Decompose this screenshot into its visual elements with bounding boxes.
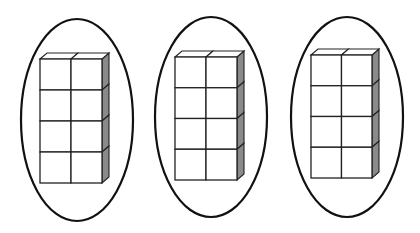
unit-cube [175, 119, 206, 150]
unit-cube [175, 88, 206, 119]
unit-cube [40, 90, 71, 121]
cube-top-face [206, 51, 244, 57]
unit-cube [40, 152, 71, 183]
cube-side-face [102, 146, 109, 183]
unit-cube [71, 90, 102, 121]
unit-cube [71, 152, 102, 183]
unit-cube [342, 147, 373, 178]
unit-cube [206, 57, 237, 88]
unit-cube [311, 147, 342, 178]
cube-side-face [237, 143, 244, 180]
cube-side-face [372, 141, 379, 178]
cube-group-3 [291, 17, 403, 217]
cube-stack [311, 49, 379, 178]
unit-cube [206, 119, 237, 150]
unit-cube [175, 57, 206, 88]
cube-top-face [342, 49, 380, 55]
cube-stack [175, 51, 244, 180]
unit-cube [175, 149, 206, 180]
unit-cube [206, 88, 237, 119]
cube-groups-diagram [0, 0, 420, 233]
cube-stack [40, 53, 109, 183]
unit-cube [206, 149, 237, 180]
unit-cube [342, 55, 373, 86]
unit-cube [311, 55, 342, 86]
unit-cube [71, 59, 102, 90]
unit-cube [342, 117, 373, 148]
unit-cube [311, 117, 342, 148]
unit-cube [40, 59, 71, 90]
cube-group-2 [155, 17, 267, 217]
cube-group-1 [21, 19, 133, 221]
unit-cube [311, 86, 342, 117]
unit-cube [40, 121, 71, 152]
unit-cube [71, 121, 102, 152]
cube-top-face [71, 53, 109, 59]
unit-cube [342, 86, 373, 117]
